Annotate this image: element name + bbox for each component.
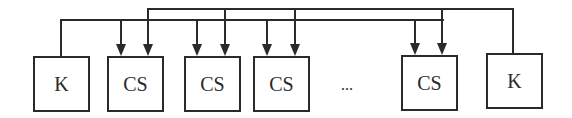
arrow-down-icon [220, 44, 230, 56]
arrow-down-icon [116, 44, 126, 56]
lower-bus [61, 20, 444, 56]
node-cs-4: CS [401, 55, 458, 111]
arrow-down-icon [262, 44, 272, 56]
node-cs-3: CS [253, 56, 310, 112]
arrow-down-icon [192, 44, 202, 56]
arrow-down-icon [290, 44, 300, 56]
arrow-down-icon [410, 43, 420, 55]
node-cs-2: CS [184, 56, 241, 112]
node-k-right: K [486, 53, 543, 109]
node-cs-1: CS [107, 56, 164, 112]
arrow-down-icon [143, 44, 153, 56]
ellipsis: ... [341, 76, 353, 94]
node-k-left: K [33, 56, 90, 112]
controller-bus-diagram: K CS CS CS ... CS K [0, 0, 572, 118]
arrow-down-icon [437, 43, 447, 55]
